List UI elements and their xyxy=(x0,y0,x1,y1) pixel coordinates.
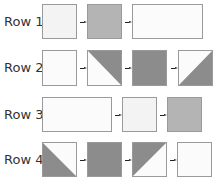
solid-block xyxy=(42,4,77,39)
arrow-right-icon xyxy=(125,21,132,24)
row-label: Row 1 xyxy=(4,14,43,30)
solid-block xyxy=(167,97,202,132)
solid-block xyxy=(87,142,122,177)
row-label: Row 3 xyxy=(4,107,43,123)
arrow-right-icon xyxy=(80,21,87,24)
arrow-right-icon xyxy=(115,114,122,117)
half-square-triangle-block xyxy=(42,142,77,177)
arrow-right-icon xyxy=(80,67,87,70)
solid-block xyxy=(87,4,122,39)
arrow-right-icon xyxy=(170,159,177,162)
half-square-triangle-block xyxy=(178,50,213,86)
arrow-right-icon xyxy=(80,159,87,162)
arrow-right-icon xyxy=(125,67,132,70)
solid-block xyxy=(177,142,212,177)
half-square-triangle-block xyxy=(132,142,167,177)
row-label: Row 4 xyxy=(4,152,43,168)
solid-block xyxy=(42,97,112,132)
solid-block xyxy=(122,97,157,132)
arrow-right-icon xyxy=(160,114,167,117)
arrow-right-icon xyxy=(125,159,132,162)
solid-block xyxy=(132,4,203,39)
solid-block xyxy=(132,50,167,86)
half-square-triangle-block xyxy=(87,50,122,86)
arrow-right-icon xyxy=(171,67,178,70)
row-label: Row 2 xyxy=(4,60,43,76)
solid-block xyxy=(42,50,77,86)
